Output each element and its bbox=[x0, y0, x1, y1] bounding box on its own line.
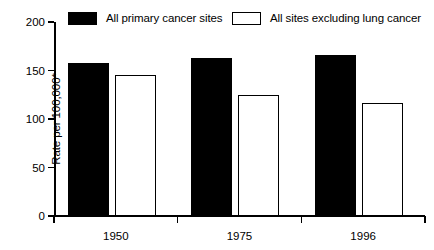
x-axis-tick bbox=[53, 216, 54, 223]
bar-1975-series-0 bbox=[191, 58, 232, 216]
y-axis-tick-label: 200 bbox=[26, 16, 45, 28]
bar-1950-series-1 bbox=[115, 75, 156, 216]
bar-1996-series-1 bbox=[362, 103, 403, 216]
plot-area: Rate per 100,000* 0501001502001950197519… bbox=[54, 22, 425, 216]
y-axis-tick-label: 100 bbox=[26, 113, 45, 125]
bar-1996-series-0 bbox=[315, 55, 356, 216]
bar-chart: All primary cancer sites All sites exclu… bbox=[0, 0, 434, 250]
y-axis-tick-label: 0 bbox=[39, 210, 45, 222]
bar-group: 1975 bbox=[178, 22, 302, 216]
y-axis-tick-label: 50 bbox=[32, 162, 45, 174]
bar-1975-series-1 bbox=[238, 95, 279, 216]
x-axis-tick-label: 1975 bbox=[227, 230, 253, 242]
x-axis-tick bbox=[424, 216, 425, 223]
x-axis-tick-label: 1996 bbox=[350, 230, 376, 242]
bar-1950-series-0 bbox=[68, 63, 109, 216]
x-axis-tick-label: 1950 bbox=[103, 230, 129, 242]
x-axis-tick bbox=[301, 216, 302, 223]
x-axis-tick bbox=[177, 216, 178, 223]
y-axis-tick-label: 150 bbox=[26, 65, 45, 77]
bar-group: 1950 bbox=[54, 22, 178, 216]
bar-group: 1996 bbox=[301, 22, 425, 216]
